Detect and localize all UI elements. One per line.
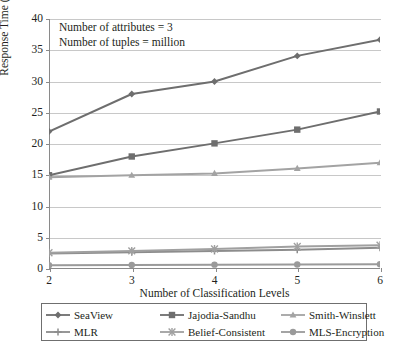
series-line <box>49 40 380 132</box>
legend-label: Smith-Winslett <box>309 309 376 321</box>
x-axis-title: Number of Classification Levels <box>49 287 380 299</box>
y-axis-label: 30 <box>19 76 43 87</box>
legend-item-jajodia-sandhu[interactable]: Jajodia-Sandhu <box>156 309 277 321</box>
y-axis-title: Response Time (minutes) <box>0 0 10 92</box>
legend-marker-circle-icon <box>280 326 306 338</box>
data-point-circle <box>290 328 296 334</box>
data-point-square <box>211 140 217 146</box>
legend-marker-plus-icon <box>45 326 71 338</box>
series-smith-winslett <box>49 159 380 180</box>
legend-marker-asterisk-icon <box>159 326 185 338</box>
legend-label: MLR <box>74 326 98 338</box>
series-mls-encryption <box>49 261 380 268</box>
x-axis-label: 2 <box>37 274 61 286</box>
series-seaview <box>49 36 380 135</box>
data-point-square <box>169 311 175 317</box>
legend-label: SeaView <box>74 309 113 321</box>
data-point-square <box>294 126 300 132</box>
chart-legend: SeaViewJajodia-SandhuSmith-WinslettMLRBe… <box>41 303 367 341</box>
data-point-circle <box>211 261 217 267</box>
data-point-circle <box>49 262 52 268</box>
data-point-circle <box>294 261 300 267</box>
legend-item-mlr[interactable]: MLR <box>42 326 156 338</box>
chart-figure: Number of attributes = 3 Number of tuple… <box>0 0 407 352</box>
legend-label: Belief-Consistent <box>188 326 265 338</box>
y-axis-label: 15 <box>19 169 43 180</box>
legend-item-mls-encryption[interactable]: MLS-Encryption <box>277 326 368 338</box>
x-axis-label: 5 <box>285 274 309 286</box>
y-axis-label: 0 <box>19 263 43 274</box>
legend-label: MLS-Encryption <box>309 326 384 338</box>
x-axis-tick <box>381 268 382 272</box>
data-point-diamond <box>128 91 135 98</box>
legend-item-belief-consistent[interactable]: Belief-Consistent <box>156 326 277 338</box>
y-axis-label: 25 <box>19 107 43 118</box>
data-point-circle <box>377 261 380 267</box>
series-jajodia-sandhu <box>49 108 380 178</box>
x-axis-label: 3 <box>120 274 144 286</box>
data-point-diamond <box>55 311 62 318</box>
data-point-diamond <box>377 36 380 43</box>
y-axis-label: 20 <box>19 138 43 149</box>
y-axis-label: 40 <box>19 13 43 24</box>
legend-item-smith-winslett[interactable]: Smith-Winslett <box>277 309 368 321</box>
y-axis-label: 5 <box>19 232 43 243</box>
legend-marker-diamond-icon <box>45 309 71 321</box>
x-axis-label: 4 <box>203 274 227 286</box>
legend-marker-triangle-icon <box>280 309 306 321</box>
data-point-diamond <box>211 78 218 85</box>
data-point-plus <box>54 328 61 335</box>
x-axis-label: 6 <box>368 274 392 286</box>
legend-marker-square-icon <box>159 309 185 321</box>
legend-item-seaview[interactable]: SeaView <box>42 309 156 321</box>
data-point-square <box>129 153 135 159</box>
legend-label: Jajodia-Sandhu <box>188 309 256 321</box>
data-point-circle <box>129 262 135 268</box>
y-axis-label: 10 <box>19 201 43 212</box>
data-point-square <box>377 108 380 114</box>
series-plot <box>49 19 380 269</box>
data-point-diamond <box>294 52 301 59</box>
y-axis-label: 35 <box>19 44 43 55</box>
